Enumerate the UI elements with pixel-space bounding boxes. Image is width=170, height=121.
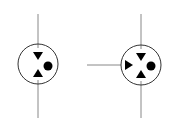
dot-icon — [44, 62, 53, 71]
triangle-up-icon — [136, 70, 146, 78]
diagram-canvas — [0, 0, 170, 121]
triangle-up-icon — [33, 69, 43, 77]
triangle-right-icon — [125, 60, 133, 70]
triangle-down-icon — [33, 52, 43, 60]
right-connector-symbol — [87, 14, 161, 118]
dot-icon — [147, 62, 156, 71]
triangle-down-icon — [136, 53, 146, 61]
left-connector-symbol — [18, 14, 58, 118]
